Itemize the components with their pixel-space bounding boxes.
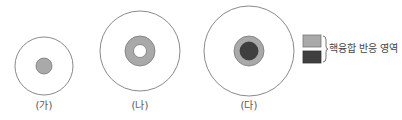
- legend-label: 핵융합 반응 영역: [329, 43, 398, 55]
- dark-fusion-swatch: [303, 51, 321, 63]
- star-na: [100, 11, 180, 91]
- star-da: [204, 6, 294, 96]
- star-ga-fusion-core: [36, 58, 52, 74]
- star-na-label: (나): [120, 100, 160, 112]
- star-ga-label: (가): [24, 100, 64, 112]
- light-fusion-swatch: [303, 35, 321, 47]
- star-ga: [15, 37, 73, 95]
- legend: [303, 35, 328, 63]
- star-da-label: (다): [229, 100, 269, 112]
- star-na-inert-core: [134, 45, 147, 58]
- legend-brace: [323, 36, 328, 62]
- star-da-fusion-core: [240, 42, 258, 60]
